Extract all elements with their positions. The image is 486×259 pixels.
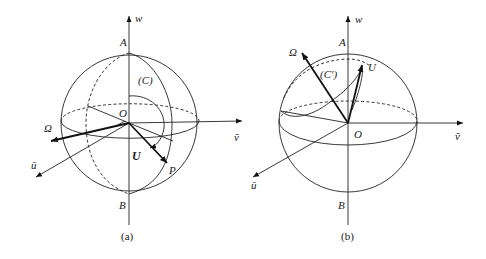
axis-label-w-a: w xyxy=(135,12,143,24)
equator-back-a xyxy=(61,104,199,121)
figure-b: w A Ω (C′) U O ṽ ū B (b) xyxy=(251,13,463,243)
v-axis-a xyxy=(129,121,242,123)
caption-b: (b) xyxy=(341,230,354,243)
axis-label-v-a: ṽ xyxy=(234,131,240,143)
u-vector-b xyxy=(348,65,362,123)
axis-label-u-b: ū xyxy=(251,179,257,191)
curve-label-c-prime: (C′) xyxy=(320,68,337,81)
curve-label-c: (C) xyxy=(138,74,153,87)
point-label-p: P xyxy=(168,164,176,176)
u-vector-label-b: U xyxy=(368,61,377,73)
origin-label-a: O xyxy=(119,107,127,119)
diagram-canvas: w A (C) O Ω ṽ U ū P B (a) w A Ω (C′) U xyxy=(0,0,486,259)
u-axis-b xyxy=(253,123,348,177)
u-vector-label-a: U xyxy=(132,149,142,163)
meridian-back-a xyxy=(86,53,129,194)
axis-label-v-b: ṽ xyxy=(455,130,461,142)
point-label-a-top-b: A xyxy=(338,36,346,48)
figure-a: w A (C) O Ω ṽ U ū P B (a) xyxy=(31,12,242,243)
omega-label-b: Ω xyxy=(289,46,297,58)
point-label-a-top: A xyxy=(119,36,127,48)
axis-label-w-b: w xyxy=(355,13,363,25)
origin-label-b: O xyxy=(354,128,362,140)
radius-back-b xyxy=(281,111,348,123)
omega-vector-b xyxy=(302,53,348,123)
caption-a: (a) xyxy=(121,230,134,243)
point-label-b-a: B xyxy=(119,199,126,211)
point-label-b-b: B xyxy=(338,199,345,211)
axis-label-u-a: ū xyxy=(31,159,37,171)
omega-label-a: Ω xyxy=(44,122,52,134)
